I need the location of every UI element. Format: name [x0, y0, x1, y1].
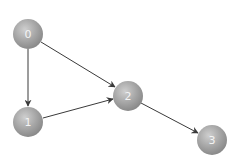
- edge-1-2: [43, 99, 113, 118]
- node-0-label: 0: [25, 28, 32, 41]
- node-1[interactable]: 1: [13, 107, 43, 137]
- node-3[interactable]: 3: [197, 125, 227, 155]
- node-0[interactable]: 0: [13, 19, 43, 49]
- edge-0-2: [41, 42, 115, 87]
- edges: [28, 42, 198, 133]
- node-2-label: 2: [125, 90, 132, 103]
- node-2[interactable]: 2: [113, 81, 143, 111]
- node-1-label: 1: [25, 116, 32, 129]
- edge-2-3: [141, 103, 198, 133]
- node-3-label: 3: [209, 134, 216, 147]
- nodes: 0 1 2 3: [13, 19, 227, 155]
- graph-canvas: 0 1 2 3: [0, 0, 240, 164]
